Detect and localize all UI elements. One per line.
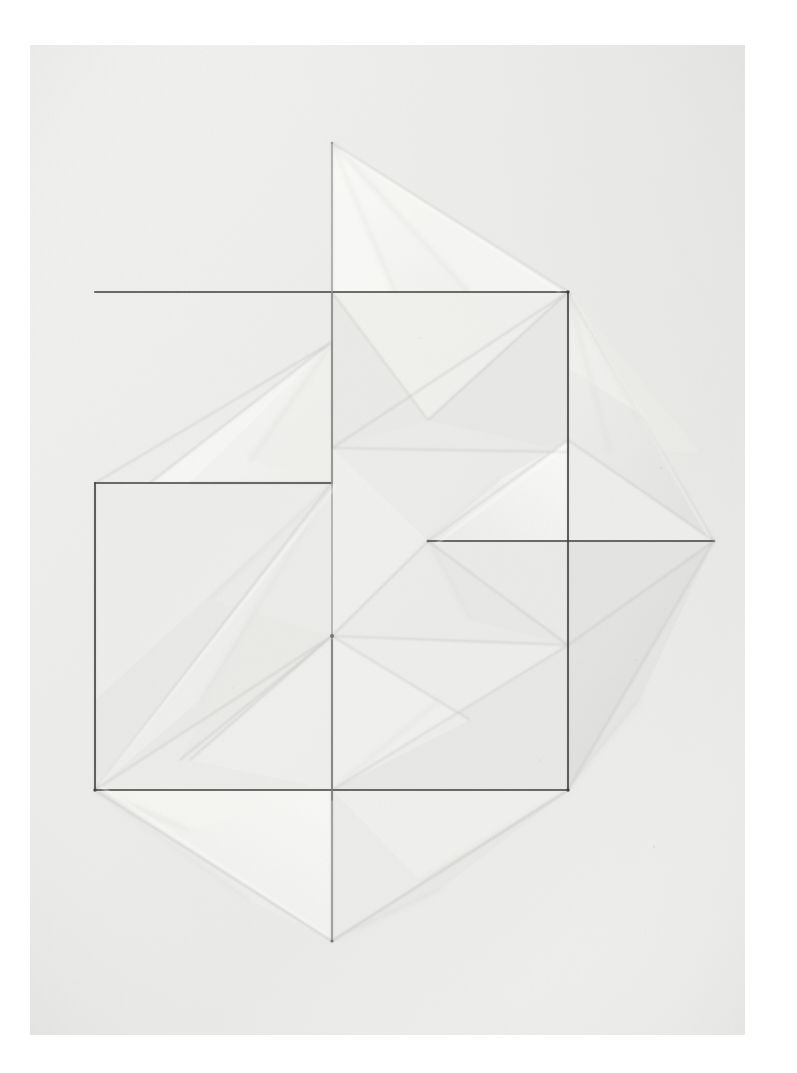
- paper-grain-overlay: [30, 45, 745, 1035]
- caption-margin: [0, 1035, 797, 1073]
- artwork-root: [0, 0, 797, 1073]
- folded-paper-photograph: [30, 45, 745, 1035]
- photo-plate: [30, 45, 745, 1035]
